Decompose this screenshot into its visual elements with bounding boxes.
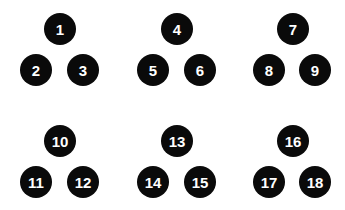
numbered-circle-node: 12: [67, 166, 99, 198]
numbered-circle-node: 1: [44, 13, 76, 45]
numbered-circle-node: 3: [67, 54, 99, 86]
numbered-circle-node: 10: [44, 125, 76, 157]
numbered-circle-node: 5: [137, 54, 169, 86]
numbered-circle-node: 17: [253, 166, 285, 198]
numbered-circle-node: 8: [253, 54, 285, 86]
numbered-circle-node: 13: [161, 125, 193, 157]
numbered-circle-node: 14: [137, 166, 169, 198]
numbered-circle-node: 2: [20, 54, 52, 86]
numbered-circle-node: 4: [161, 13, 193, 45]
numbered-circle-node: 7: [277, 13, 309, 45]
numbered-circle-node: 16: [277, 125, 309, 157]
numbered-circle-node: 18: [299, 166, 331, 198]
numbered-circle-node: 15: [184, 166, 216, 198]
numbered-circle-node: 6: [184, 54, 216, 86]
numbered-circle-node: 11: [20, 166, 52, 198]
numbered-circle-node: 9: [299, 54, 331, 86]
